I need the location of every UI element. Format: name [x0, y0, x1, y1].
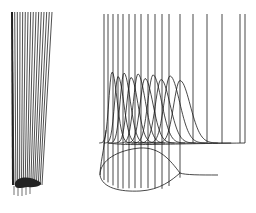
- right-panel-curves: [99, 14, 245, 191]
- figure-svg: [0, 0, 256, 213]
- figure: [0, 0, 256, 213]
- left-panel-knot: [14, 178, 41, 196]
- left-panel-line-bundle: [12, 12, 52, 185]
